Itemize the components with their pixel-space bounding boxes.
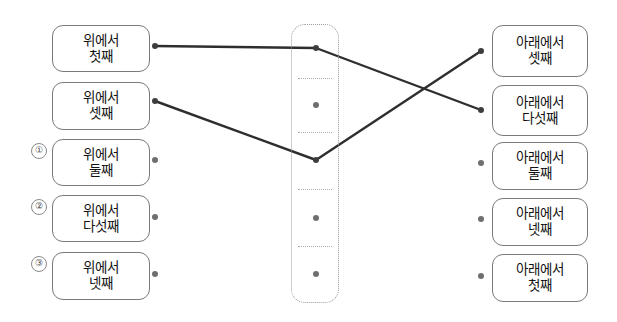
center-slot-panel[interactable] xyxy=(291,24,339,303)
center-connector-dot-4[interactable] xyxy=(313,215,319,221)
right-connector-dot-4[interactable] xyxy=(478,216,484,222)
right-option-4[interactable]: 아래에서넷째 xyxy=(492,198,588,246)
right-option-1-line2: 셋째 xyxy=(528,51,552,67)
right-option-5[interactable]: 아래에서첫째 xyxy=(492,254,588,302)
left-option-3-line1: 위에서 xyxy=(83,147,118,163)
right-option-4-line2: 넷째 xyxy=(528,222,552,238)
right-connector-dot-1[interactable] xyxy=(478,48,484,54)
right-connector-dot-5[interactable] xyxy=(478,273,484,279)
center-connector-dot-5[interactable] xyxy=(313,271,319,277)
center-panel-divider-3 xyxy=(298,189,332,190)
item-number-5: ③ xyxy=(31,256,47,272)
right-option-3[interactable]: 아래에서둘째 xyxy=(492,142,588,190)
center-panel-divider-2 xyxy=(298,132,332,133)
center-panel-divider-4 xyxy=(298,246,332,247)
left-option-1[interactable]: 위에서첫째 xyxy=(52,25,150,72)
left-option-2[interactable]: 위에서셋째 xyxy=(52,82,150,130)
center-connector-dot-3[interactable] xyxy=(313,157,319,163)
left-option-5-line2: 넷째 xyxy=(89,276,113,292)
right-option-2[interactable]: 아래에서다섯째 xyxy=(492,85,588,136)
right-option-1-line1: 아래에서 xyxy=(516,35,563,51)
right-option-3-line2: 둘째 xyxy=(528,166,552,182)
left-connector-dot-3[interactable] xyxy=(152,157,158,163)
right-option-3-line1: 아래에서 xyxy=(516,150,563,166)
item-number-3: ① xyxy=(31,143,47,159)
left-option-4-line1: 위에서 xyxy=(83,203,118,219)
left-connector-dot-2[interactable] xyxy=(152,98,158,104)
right-option-1[interactable]: 아래에서셋째 xyxy=(492,25,588,77)
left-connector-dot-1[interactable] xyxy=(152,43,158,49)
right-option-2-line1: 아래에서 xyxy=(516,95,563,111)
left-option-3[interactable]: 위에서둘째 xyxy=(52,139,150,186)
right-option-2-line2: 다섯째 xyxy=(522,111,557,127)
right-option-5-line1: 아래에서 xyxy=(516,262,563,278)
left-option-3-line2: 둘째 xyxy=(89,163,113,179)
left-option-1-line1: 위에서 xyxy=(83,33,118,49)
left-option-4-line2: 다섯째 xyxy=(83,219,118,235)
left-option-4[interactable]: 위에서다섯째 xyxy=(52,195,150,242)
center-panel-divider-1 xyxy=(298,78,332,79)
left-option-5-line1: 위에서 xyxy=(83,260,118,276)
right-option-5-line2: 첫째 xyxy=(528,278,552,294)
left-connector-dot-5[interactable] xyxy=(152,271,158,277)
left-option-1-line2: 첫째 xyxy=(89,49,113,65)
center-connector-dot-2[interactable] xyxy=(313,102,319,108)
right-option-4-line1: 아래에서 xyxy=(516,206,563,222)
left-option-2-line2: 셋째 xyxy=(89,106,113,122)
right-connector-dot-2[interactable] xyxy=(478,107,484,113)
line-center1-to-right2 xyxy=(316,48,481,110)
matching-exercise-canvas: 위에서첫째위에서셋째①위에서둘째②위에서다섯째③위에서넷째 아래에서셋째아래에서… xyxy=(0,0,617,322)
item-number-4: ② xyxy=(31,199,47,215)
left-option-2-line1: 위에서 xyxy=(83,90,118,106)
left-option-5[interactable]: 위에서넷째 xyxy=(52,252,150,300)
line-center3-to-right1 xyxy=(316,51,481,160)
center-connector-dot-1[interactable] xyxy=(313,45,319,51)
left-connector-dot-4[interactable] xyxy=(152,214,158,220)
right-connector-dot-3[interactable] xyxy=(478,160,484,166)
